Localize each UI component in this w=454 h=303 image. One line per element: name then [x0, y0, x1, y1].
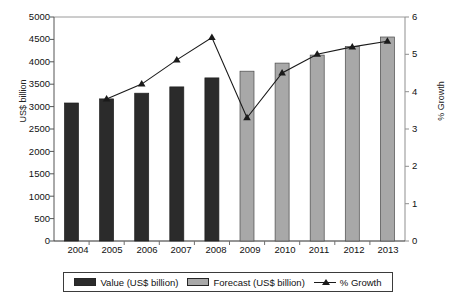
bar-2005	[100, 99, 114, 241]
legend-label-forecast: Forecast (US$ billion)	[213, 277, 304, 288]
legend-label-growth: % Growth	[340, 277, 382, 288]
bar-series-forecast	[240, 37, 394, 241]
legend-label-value: Value (US$ billion)	[100, 277, 178, 288]
bar-2012	[345, 47, 359, 242]
growth-marker-2006	[138, 80, 146, 87]
bar-2009	[240, 71, 254, 241]
bar-2007	[170, 87, 184, 241]
plot-area	[0, 0, 454, 303]
legend-line-marker-icon	[314, 278, 336, 287]
bar-2004	[65, 103, 79, 241]
y-axis-right-ticks	[405, 17, 409, 241]
bar-2010	[275, 63, 289, 241]
legend-item-forecast: Forecast (US$ billion)	[187, 277, 304, 288]
chart-container: US$ billion % Growth 5000 4500 4000 3500…	[0, 0, 454, 303]
bar-series-value	[65, 78, 219, 241]
bar-2013	[380, 37, 394, 241]
bar-2006	[135, 93, 149, 241]
legend-item-value: Value (US$ billion)	[74, 277, 178, 288]
legend-swatch-value-icon	[74, 278, 96, 286]
y-axis-left-ticks	[50, 17, 54, 241]
x-axis-ticks	[89, 241, 370, 245]
growth-marker-2007	[173, 56, 181, 63]
bar-2008	[205, 78, 219, 241]
legend-item-growth: % Growth	[314, 277, 382, 288]
legend-swatch-forecast-icon	[187, 278, 209, 286]
chart-legend: Value (US$ billion) Forecast (US$ billio…	[63, 272, 393, 292]
growth-marker-2008	[208, 34, 216, 41]
bar-2011	[310, 55, 324, 241]
